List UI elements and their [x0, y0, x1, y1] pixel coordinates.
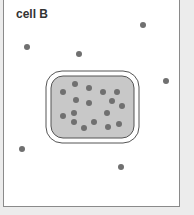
particle: [91, 119, 97, 125]
particle: [60, 89, 66, 95]
particle: [100, 89, 106, 95]
particle: [116, 121, 122, 127]
particle: [72, 81, 78, 87]
particle: [71, 119, 77, 125]
particle: [73, 97, 79, 103]
particle: [81, 125, 87, 131]
particle: [105, 124, 111, 130]
particle: [60, 113, 66, 119]
particle: [19, 146, 25, 152]
particle: [114, 89, 120, 95]
particle: [86, 100, 92, 106]
particle: [104, 110, 110, 116]
particle: [140, 22, 146, 28]
particle: [86, 85, 92, 91]
particle: [71, 110, 77, 116]
particle: [76, 51, 82, 57]
particle: [118, 164, 124, 170]
cell-diagram: [0, 0, 194, 215]
particle: [119, 103, 125, 109]
particle: [24, 44, 30, 50]
particle: [109, 98, 115, 104]
particle: [163, 78, 169, 84]
